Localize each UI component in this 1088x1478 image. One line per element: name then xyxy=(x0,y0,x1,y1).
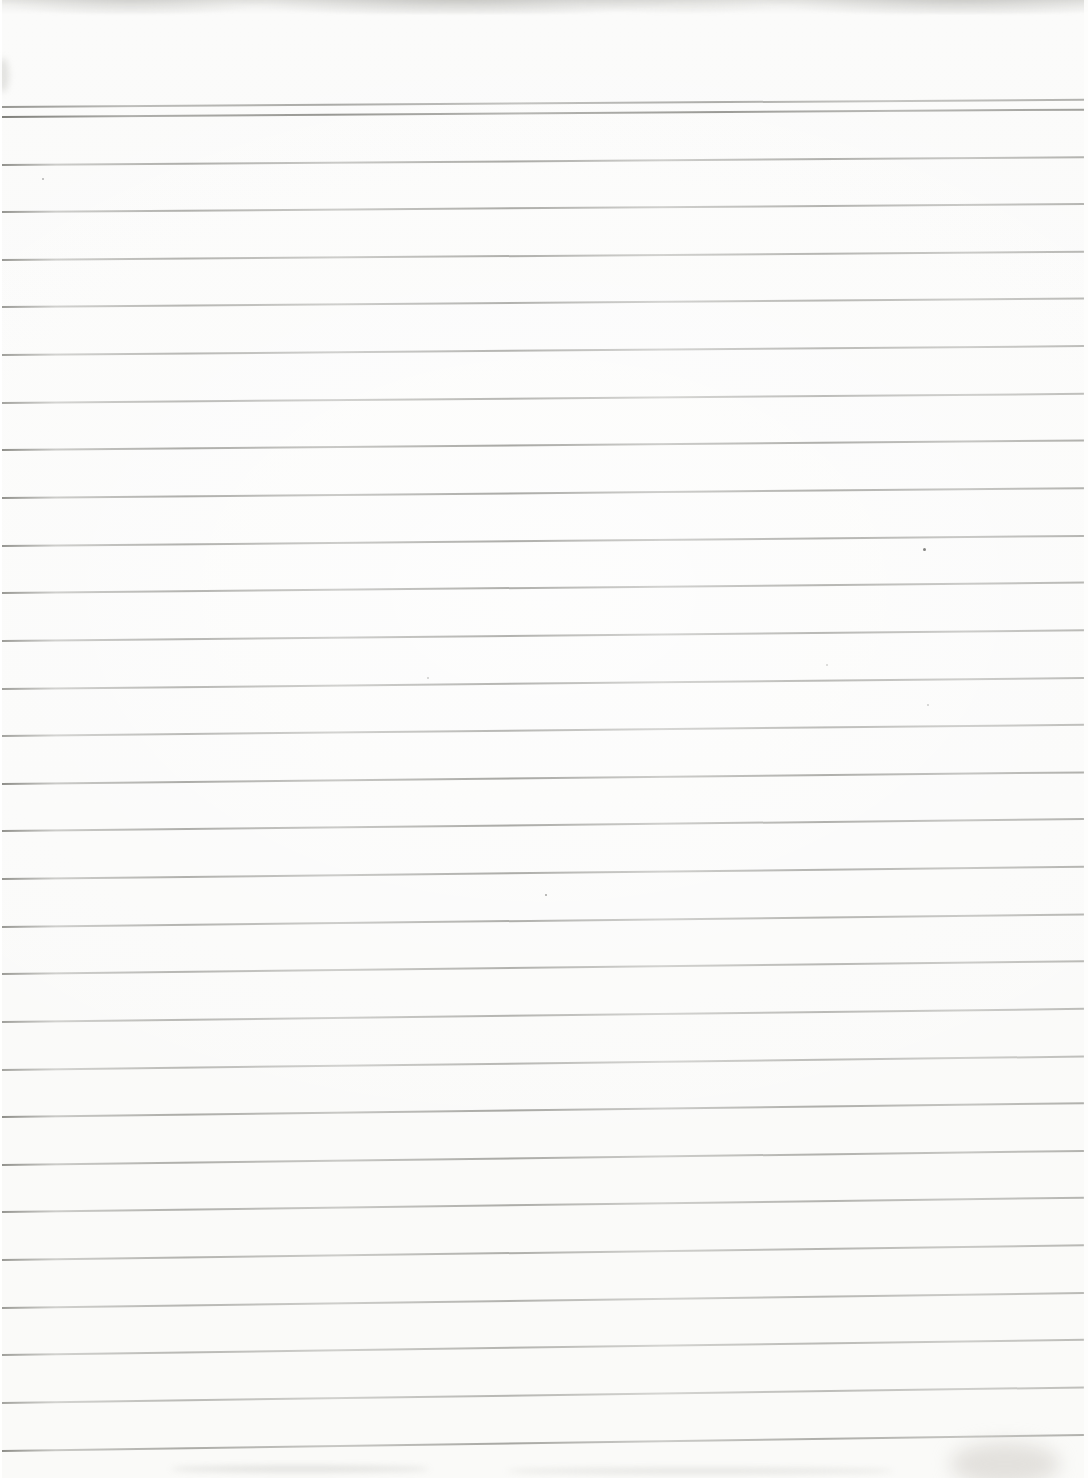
ruled-line xyxy=(2,298,1084,309)
ruled-line xyxy=(2,1150,1084,1166)
scan-smudge xyxy=(505,1468,895,1474)
ruled-line xyxy=(2,724,1084,737)
ruled-line xyxy=(2,1292,1084,1309)
scan-shade-bottom-right xyxy=(950,1442,1060,1478)
ruled-line xyxy=(2,866,1084,880)
ruled-line xyxy=(2,1434,1084,1452)
ruled-line xyxy=(2,203,1084,213)
scan-smudge xyxy=(170,1466,430,1472)
ruled-line xyxy=(2,535,1084,547)
notebook-page xyxy=(0,0,1088,1478)
ruled-line xyxy=(2,1055,1084,1070)
ruled-line xyxy=(2,1244,1084,1261)
ruled-line xyxy=(2,913,1084,928)
paper-speck xyxy=(927,704,929,706)
ruled-line xyxy=(2,960,1084,975)
paper-speck xyxy=(42,178,44,180)
paper-speck xyxy=(826,664,828,666)
ruled-line xyxy=(2,1197,1084,1213)
paper-speck xyxy=(545,894,547,896)
ruled-line xyxy=(2,771,1084,785)
ruled-line xyxy=(2,251,1084,261)
header-rule-line xyxy=(2,99,1084,108)
ruled-line xyxy=(2,440,1084,451)
ruled-line xyxy=(2,1386,1084,1404)
ruled-line xyxy=(2,345,1084,356)
ruled-lines xyxy=(0,0,1088,1478)
scan-edge-left xyxy=(0,0,2,1478)
paper-speck xyxy=(923,548,926,551)
ruled-line xyxy=(2,582,1084,594)
ruled-line xyxy=(2,1339,1084,1356)
paper-speck xyxy=(427,677,429,679)
ruled-line xyxy=(2,818,1084,832)
ruled-line xyxy=(2,393,1084,404)
ruled-line xyxy=(2,677,1084,690)
ruled-line xyxy=(2,1102,1084,1118)
scan-edge-right xyxy=(1084,0,1088,1478)
header-rule-line xyxy=(2,109,1084,118)
ruled-line xyxy=(2,487,1084,499)
ruled-line xyxy=(2,156,1084,166)
ruled-line xyxy=(2,629,1084,642)
ruled-line xyxy=(2,1008,1084,1023)
